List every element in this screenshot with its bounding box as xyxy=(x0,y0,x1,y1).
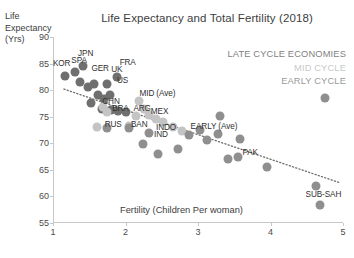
data-point xyxy=(236,134,245,143)
y-axis-tick-label: 65 xyxy=(39,165,49,175)
data-point xyxy=(215,111,224,120)
data-point-label: US xyxy=(117,76,128,85)
data-point-label: RUS xyxy=(105,120,122,129)
data-point xyxy=(75,77,84,86)
data-point xyxy=(87,98,96,107)
y-axis-tick-mark xyxy=(50,196,53,197)
data-point xyxy=(173,144,182,153)
x-axis-tick-label: 5 xyxy=(340,227,345,237)
x-axis-tick-mark xyxy=(271,223,272,226)
data-point-label: FRA xyxy=(120,57,136,66)
data-point xyxy=(185,130,194,139)
y-axis-tick-label: 80 xyxy=(39,85,49,95)
data-point xyxy=(154,149,163,158)
scatter-chart: Life Expectancy and Total Fertility (201… xyxy=(0,0,354,258)
y-axis-tick-mark xyxy=(50,170,53,171)
plot-area: 556065707580859012345JPNSPAKORGERUKFRAUS… xyxy=(53,37,343,223)
y-axis-title-line-2: Expectancy xyxy=(5,23,67,35)
data-point-label: SPA xyxy=(71,56,86,65)
x-axis-title: Fertility (Children Per woman) xyxy=(120,205,243,215)
data-point xyxy=(315,200,324,209)
y-axis-tick-mark xyxy=(50,90,53,91)
y-axis-title-line-1: Life xyxy=(5,11,67,23)
data-point-label: IND xyxy=(154,130,168,139)
data-point xyxy=(103,79,112,88)
x-axis-tick-mark xyxy=(53,223,54,226)
data-point-label: MID (Ave) xyxy=(139,89,175,98)
data-point xyxy=(92,123,101,132)
y-axis-tick-mark xyxy=(50,143,53,144)
data-point-label: KOR xyxy=(53,59,70,68)
chart-title: Life Expectancy and Total Fertility (201… xyxy=(72,12,342,24)
x-axis-tick-label: 1 xyxy=(50,227,55,237)
y-axis-tick-label: 90 xyxy=(39,32,49,42)
data-point-label: SUB-SAH xyxy=(306,189,342,198)
data-point xyxy=(233,152,242,161)
x-axis-tick-label: 4 xyxy=(268,227,273,237)
x-axis-tick-label: 2 xyxy=(123,227,128,237)
y-axis-tick-label: 60 xyxy=(39,191,49,201)
data-point-label: ARG xyxy=(133,104,150,113)
data-point-label: GER xyxy=(91,63,108,72)
data-point xyxy=(214,129,223,138)
data-point xyxy=(202,136,211,145)
y-axis-tick-label: 85 xyxy=(39,59,49,69)
y-axis-tick-label: 75 xyxy=(39,112,49,122)
data-point xyxy=(320,94,329,103)
x-axis-tick-mark xyxy=(126,223,127,226)
data-point xyxy=(144,128,153,137)
x-axis-tick-label: 3 xyxy=(195,227,200,237)
data-point xyxy=(138,140,147,149)
data-point-label: MEX xyxy=(151,107,168,116)
y-axis-tick-mark xyxy=(50,37,53,38)
data-point-label: BRA xyxy=(112,104,129,113)
y-axis-tick-label: 70 xyxy=(39,138,49,148)
data-point xyxy=(71,67,80,76)
data-point xyxy=(102,107,111,116)
y-axis-tick-mark xyxy=(50,117,53,118)
data-point-label: PAK xyxy=(242,148,257,157)
data-point xyxy=(224,155,233,164)
data-point xyxy=(61,72,70,81)
data-point xyxy=(83,82,92,91)
data-point xyxy=(262,162,271,171)
x-axis-tick-mark xyxy=(343,223,344,226)
data-point-label: BAN xyxy=(131,119,148,128)
data-point-label: EARLY (Ave) xyxy=(191,121,238,130)
x-axis-tick-mark xyxy=(198,223,199,226)
y-axis-tick-label: 55 xyxy=(39,218,49,228)
